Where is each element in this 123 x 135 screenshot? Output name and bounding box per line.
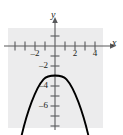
y-tick-label-neg4: –4 — [30, 81, 48, 90]
x-axis-label: x — [112, 38, 116, 48]
x-tick-label-neg2: –2 — [27, 49, 43, 58]
x-tick-label-4: 4 — [87, 49, 103, 58]
graph-figure: y x –2 2 4 –2 –4 –6 — [0, 0, 123, 135]
y-axis-label: y — [51, 10, 55, 20]
coordinate-plane — [0, 0, 123, 135]
x-tick-label-2: 2 — [67, 49, 83, 58]
y-tick-label-neg6: –6 — [30, 101, 48, 110]
y-tick-label-neg2: –2 — [30, 61, 48, 70]
